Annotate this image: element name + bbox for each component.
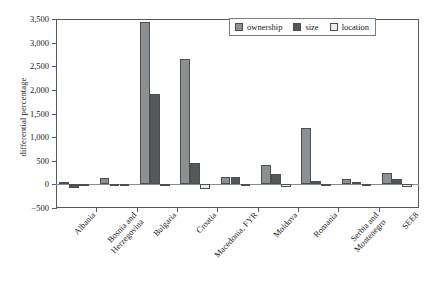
bar-group (177, 19, 217, 208)
x-axis-label: Albania (72, 210, 98, 237)
x-axis-label: Moldova (271, 210, 299, 239)
bar-group (258, 19, 298, 208)
bar-size (150, 94, 160, 185)
bar-group (137, 19, 177, 208)
x-axis-labels: AlbaniaBosnia andHerzegovinaBulgariaCroa… (56, 210, 419, 297)
x-axis-label: Croatia (194, 210, 218, 235)
y-tick-label: 1,000 (30, 132, 49, 142)
legend-swatch-ownership (235, 23, 243, 31)
bar-location (402, 184, 412, 187)
bar-size (231, 177, 241, 184)
x-axis-label: Macedonia, FYR (212, 210, 259, 260)
y-tick-label: 2,500 (30, 61, 49, 71)
bar-ownership (221, 177, 231, 185)
legend-swatch-location (330, 23, 338, 31)
bar-ownership (180, 59, 190, 184)
bar-size (190, 163, 200, 185)
bar-size (311, 181, 321, 184)
bar-location (160, 184, 170, 186)
bar-group (338, 19, 378, 208)
y-tick-label: −500 (31, 203, 49, 213)
x-axis-label: Serbia andMontenegro (344, 210, 387, 254)
bar-location (79, 184, 89, 186)
y-tick-label: 2,000 (30, 85, 49, 95)
y-tick-label: 0 (45, 179, 49, 189)
bar-ownership (261, 165, 271, 184)
plot-area: −50005001,0001,5002,0002,5003,0003,500 (56, 19, 419, 208)
bar-size (110, 184, 120, 186)
bar-size (69, 184, 79, 187)
bar-ownership (382, 173, 392, 185)
bar-group (298, 19, 338, 208)
bar-location (241, 184, 251, 186)
x-axis-label: Bulgaria (151, 210, 178, 238)
legend-item-size: size (293, 22, 318, 32)
x-axis-label: SEE8 (400, 210, 421, 231)
y-tick (52, 208, 57, 209)
bar-group (379, 19, 419, 208)
x-axis-label: Bosnia andHerzegovina (101, 210, 145, 255)
legend-label-ownership: ownership (247, 22, 282, 32)
legend-item-ownership: ownership (235, 22, 282, 32)
bar-groups (56, 19, 419, 208)
bar-location (120, 184, 130, 186)
bar-location (200, 184, 210, 189)
bar-location (362, 184, 372, 186)
bar-ownership (140, 22, 150, 184)
legend-label-location: location (342, 22, 369, 32)
bar-ownership (342, 179, 352, 184)
legend-swatch-size (293, 23, 301, 31)
bar-ownership (301, 128, 311, 184)
bar-ownership (100, 178, 110, 184)
legend-label-size: size (305, 22, 318, 32)
bar-group (56, 19, 96, 208)
bar-size (392, 179, 402, 184)
bar-location (321, 184, 331, 186)
x-axis-label: Romania (311, 210, 339, 239)
y-tick-label: 1,500 (30, 109, 49, 119)
y-tick-label: 3,500 (30, 14, 49, 24)
bar-size (352, 182, 362, 185)
y-tick-label: 3,000 (30, 38, 49, 48)
bar-location (281, 184, 291, 187)
bar-ownership (59, 182, 69, 184)
bar-chart: differential percentage −50005001,0001,5… (0, 0, 436, 297)
y-tick-label: 500 (36, 156, 49, 166)
bar-group (217, 19, 257, 208)
legend-item-location: location (330, 22, 369, 32)
y-axis-title: differential percentage (18, 47, 28, 187)
bar-size (271, 174, 281, 185)
bar-group (96, 19, 136, 208)
chart-legend: ownership size location (229, 18, 376, 36)
